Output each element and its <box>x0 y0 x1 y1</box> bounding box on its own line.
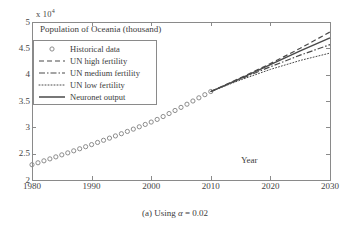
data-point-marker <box>66 151 70 155</box>
data-point-marker <box>95 140 99 144</box>
legend-circle-icon <box>50 47 54 51</box>
legend-sample-glyph <box>37 67 67 79</box>
legend-line-sample <box>37 91 67 103</box>
data-point-marker <box>149 120 153 124</box>
data-point-marker <box>143 122 147 126</box>
data-point-marker <box>185 102 189 106</box>
legend-line-sample <box>37 43 67 55</box>
legend: Historical dataUN high fertilityUN mediu… <box>33 40 157 105</box>
x-axis-tick-label: 2000 <box>131 182 171 191</box>
legend-item: UN high fertility <box>34 55 156 67</box>
legend-sample-glyph <box>37 55 67 67</box>
x-axis-tick-label: 2030 <box>310 182 350 191</box>
data-point-marker <box>167 111 171 115</box>
legend-sample-glyph <box>37 43 67 55</box>
legend-item: UN medium fertility <box>34 67 156 79</box>
legend-sample-glyph <box>37 79 67 91</box>
series-un-low-fertility <box>211 53 330 91</box>
y-axis-tick-label: 4.5 <box>2 44 30 53</box>
legend-item-label: UN low fertility <box>67 81 125 90</box>
legend-sample-glyph <box>37 91 67 103</box>
data-point-marker <box>161 114 165 118</box>
y-axis-tick-label: 3 <box>2 123 30 132</box>
data-point-marker <box>119 132 123 136</box>
data-point-marker <box>137 125 141 129</box>
y-axis-tick-label: 3.5 <box>2 97 30 106</box>
legend-item-label: Neuronet output <box>67 93 125 102</box>
data-point-marker <box>36 161 40 165</box>
legend-item-label: UN high fertility <box>67 57 127 66</box>
data-point-marker <box>191 99 195 103</box>
legend-item: UN low fertility <box>34 79 156 91</box>
y-axis-tick-labels: 22.533.544.55 <box>0 0 30 236</box>
legend-item: Historical data <box>34 43 156 55</box>
data-point-marker <box>107 136 111 140</box>
y-axis-tick-label: 2.5 <box>2 149 30 158</box>
data-point-marker <box>101 138 105 142</box>
x-axis-tick-label: 2020 <box>250 182 290 191</box>
caption-prefix: (a) Using <box>142 208 178 218</box>
legend-line-sample <box>37 55 67 67</box>
data-point-marker <box>90 143 94 147</box>
x-axis-label: Year <box>241 155 258 165</box>
data-point-marker <box>60 153 64 157</box>
plot-title: Population of Oceania (thousand) <box>40 24 161 34</box>
legend-item-label: Historical data <box>67 45 120 54</box>
legend-item: Neuronet output <box>34 91 156 103</box>
figure-caption: (a) Using α = 0.02 <box>0 208 350 218</box>
plot-canvas <box>0 0 350 236</box>
y-axis-exponent-prefix: x 10 <box>36 9 52 19</box>
y-axis-tick-label: 4 <box>2 70 30 79</box>
data-point-marker <box>197 96 201 100</box>
data-point-marker <box>72 149 76 153</box>
data-point-marker <box>48 157 52 161</box>
legend-line-sample <box>37 79 67 91</box>
series-un-high-fertility <box>211 32 330 92</box>
data-point-marker <box>113 134 117 138</box>
data-point-marker <box>203 93 207 97</box>
x-axis-tick-label: 1990 <box>72 182 112 191</box>
caption-suffix: = 0.02 <box>183 208 208 218</box>
data-point-marker <box>131 127 135 131</box>
y-axis-exponent-label: x 104 <box>36 8 55 19</box>
data-point-marker <box>173 108 177 112</box>
series-neuronet-output <box>211 38 330 92</box>
x-axis-tick-label: 1980 <box>12 182 52 191</box>
data-point-marker <box>125 129 129 133</box>
data-point-marker <box>84 145 88 149</box>
data-point-marker <box>78 147 82 151</box>
data-point-marker <box>42 159 46 163</box>
legend-line-sample <box>37 67 67 79</box>
legend-item-label: UN medium fertility <box>67 69 140 78</box>
data-point-marker <box>155 117 159 121</box>
y-axis-exponent-power: 4 <box>52 8 55 14</box>
data-point-marker <box>179 105 183 109</box>
y-axis-tick-label: 5 <box>2 18 30 27</box>
x-axis-tick-label: 2010 <box>191 182 231 191</box>
data-point-marker <box>54 155 58 159</box>
figure-container: x 104 22.533.544.55 19801990200020102020… <box>0 0 350 236</box>
